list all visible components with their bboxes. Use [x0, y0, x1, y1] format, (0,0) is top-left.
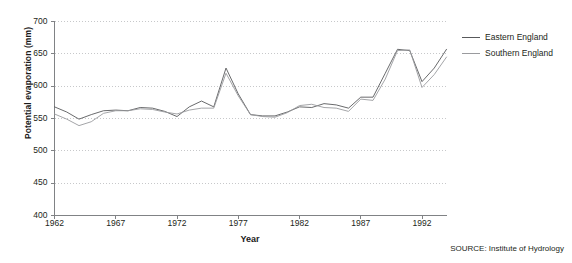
series-line-eastern-england [55, 49, 447, 119]
potential-evaporation-line-chart: Potential evaporation (mm) Year 40045050… [0, 0, 572, 263]
x-tick-label-1992: 1992 [402, 218, 442, 228]
y-tick-label-550: 550 [16, 113, 48, 123]
series-line-southern-england [55, 50, 447, 126]
y-tick-label-700: 700 [16, 16, 48, 26]
x-tick-label-1982: 1982 [280, 218, 320, 228]
x-tick-label-1977: 1977 [218, 218, 258, 228]
y-tick-label-650: 650 [16, 48, 48, 58]
y-tick-label-500: 500 [16, 145, 48, 155]
legend-label-eastern-england: Eastern England [485, 32, 548, 42]
x-axis-title: Year [54, 234, 446, 244]
x-tick-label-1967: 1967 [96, 218, 136, 228]
legend-line-swatch-eastern [462, 34, 480, 41]
legend-item-eastern-england: Eastern England [462, 30, 570, 44]
chart-legend: Eastern England Southern England [462, 30, 570, 62]
legend-line-swatch-southern [462, 50, 480, 57]
x-tick-label-1987: 1987 [341, 218, 381, 228]
y-tick-label-600: 600 [16, 80, 48, 90]
x-tick-label-1962: 1962 [35, 218, 75, 228]
source-note: SOURCE: Institute of Hydrology [450, 244, 564, 253]
gridlines-group [55, 22, 447, 184]
legend-label-southern-england: Southern England [485, 48, 553, 58]
y-tick-label-450: 450 [16, 177, 48, 187]
x-tick-label-1972: 1972 [157, 218, 197, 228]
tick-marks-group [51, 22, 422, 220]
data-series-group [55, 49, 447, 125]
legend-item-southern-england: Southern England [462, 46, 570, 60]
